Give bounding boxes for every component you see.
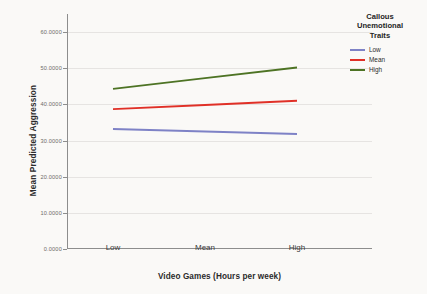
- y-tick-label: 0.0000: [44, 246, 62, 252]
- legend-title-line-2: Unemotional: [336, 21, 424, 30]
- series-lines: [67, 14, 372, 249]
- legend-title-line-1: Callous: [336, 12, 424, 21]
- y-tick-label: 60.0000: [40, 29, 62, 35]
- legend: Callous Unemotional Traits LowMeanHigh: [336, 12, 424, 75]
- y-tick-label: 10.0000: [40, 210, 62, 216]
- y-axis-title: Mean Predicted Aggression: [29, 46, 38, 236]
- legend-items: LowMeanHigh: [336, 45, 424, 74]
- legend-swatch-icon: [350, 49, 365, 51]
- legend-label: Mean: [369, 56, 385, 63]
- y-tick-label: 40.0000: [40, 101, 62, 107]
- legend-swatch-icon: [350, 59, 365, 61]
- legend-title-line-3: Traits: [336, 31, 424, 40]
- series-line-low: [113, 129, 297, 134]
- legend-label: Low: [369, 46, 381, 53]
- plot-area: 0.000010.000020.000030.000040.000050.000…: [67, 14, 372, 249]
- legend-item-mean[interactable]: Mean: [350, 55, 424, 64]
- legend-swatch-icon: [350, 69, 365, 71]
- legend-title: Callous Unemotional Traits: [336, 12, 424, 40]
- series-line-high: [113, 68, 297, 89]
- x-tick-label-mean: Mean: [195, 243, 215, 252]
- legend-item-high[interactable]: High: [350, 65, 424, 74]
- legend-item-low[interactable]: Low: [350, 45, 424, 54]
- x-axis-title: Video Games (Hours per week): [67, 272, 372, 281]
- y-tick-label: 50.0000: [40, 65, 62, 71]
- legend-label: High: [369, 66, 382, 73]
- tick-mark: [63, 249, 67, 250]
- line-chart: Mean Predicted Aggression 0.000010.00002…: [0, 0, 427, 294]
- x-tick-label-low: Low: [106, 243, 121, 252]
- y-tick-label: 30.0000: [40, 138, 62, 144]
- y-tick-label: 20.0000: [40, 174, 62, 180]
- x-tick-label-high: High: [289, 243, 305, 252]
- series-line-mean: [113, 101, 297, 109]
